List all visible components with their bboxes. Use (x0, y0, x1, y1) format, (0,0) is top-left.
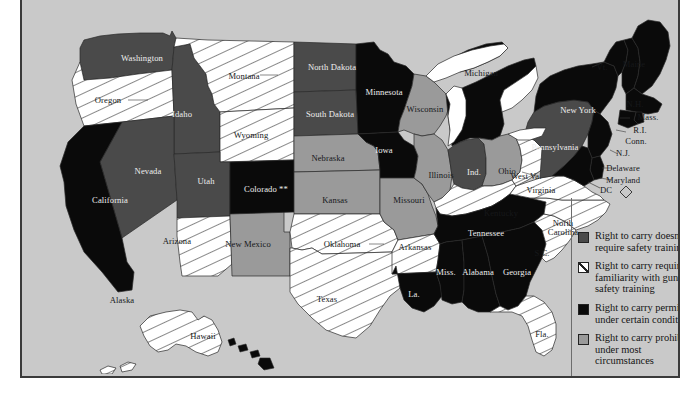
legend-label-4: Right to carry prohibited under most cir… (595, 332, 680, 367)
legend-label-1: Right to carry doesn't require safety tr… (595, 230, 680, 253)
state-UT[interactable] (174, 152, 230, 218)
map-figure: WashingtonOregonIdahoMontanaWyomingNevad… (0, 0, 694, 410)
legend-label-2: Right to carry requires familiarity with… (595, 260, 680, 295)
legend-swatch-black (578, 304, 589, 315)
legend-item-1[interactable]: Right to carry doesn't require safety tr… (578, 230, 680, 253)
state-TX[interactable] (290, 248, 404, 338)
state-IN[interactable] (448, 138, 486, 190)
legend-label-3: Right to carry permitted under certain c… (595, 302, 680, 325)
legend-item-4[interactable]: Right to carry prohibited under most cir… (578, 332, 680, 367)
legend-swatch-white-hatched (578, 262, 589, 273)
state-SD[interactable] (294, 90, 358, 136)
state-AK[interactable] (100, 310, 222, 374)
legend-swatch-mid-gray (578, 334, 589, 345)
state-AZ[interactable] (177, 216, 232, 276)
state-KS[interactable] (294, 170, 380, 214)
map-panel: WashingtonOregonIdahoMontanaWyomingNevad… (20, 0, 680, 378)
state-ND[interactable] (294, 42, 356, 92)
legend-swatch-dark-gray (578, 232, 589, 243)
legend-item-3[interactable]: Right to carry permitted under certain c… (578, 302, 680, 325)
state-CO[interactable] (230, 160, 294, 214)
state-AR[interactable] (392, 234, 440, 274)
legend-separator (571, 198, 572, 378)
map-legend: Right to carry doesn't require safety tr… (578, 230, 680, 374)
state-HI[interactable] (228, 338, 274, 370)
state-OK[interactable] (290, 214, 398, 254)
state-WY[interactable] (220, 108, 294, 162)
legend-item-2[interactable]: Right to carry requires familiarity with… (578, 260, 680, 295)
